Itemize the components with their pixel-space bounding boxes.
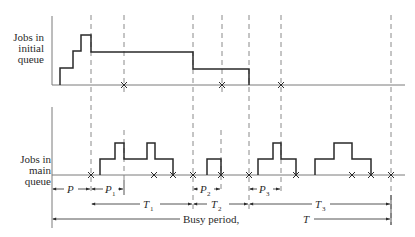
label-T1: T bbox=[143, 198, 150, 210]
busy-period-label: Busy period, bbox=[183, 213, 239, 225]
svg-text:2: 2 bbox=[207, 190, 211, 198]
initial-queue-step-line bbox=[60, 35, 249, 85]
label-P1: P bbox=[104, 183, 112, 195]
label-P2: P bbox=[199, 183, 207, 195]
svg-text:1: 1 bbox=[150, 205, 154, 213]
busy-period-diagram: Jobs in initial queue Jobs in main queue bbox=[0, 0, 415, 237]
dashed-guides bbox=[91, 15, 391, 225]
label-T2: T bbox=[211, 198, 218, 210]
svg-text:3: 3 bbox=[322, 205, 326, 213]
top-label-line-3: queue bbox=[18, 53, 44, 65]
main-queue-step-lines bbox=[100, 143, 371, 175]
initial-queue-panel: Jobs in initial queue bbox=[13, 16, 405, 88]
bottom-label-line-3: queue bbox=[25, 175, 51, 187]
svg-text:2: 2 bbox=[218, 205, 222, 213]
label-T3: T bbox=[315, 198, 322, 210]
label-P3: P bbox=[258, 183, 266, 195]
label-P: P bbox=[66, 183, 74, 195]
busy-period-symbol: T bbox=[303, 213, 310, 225]
svg-text:1: 1 bbox=[112, 190, 116, 198]
svg-text:3: 3 bbox=[266, 190, 270, 198]
